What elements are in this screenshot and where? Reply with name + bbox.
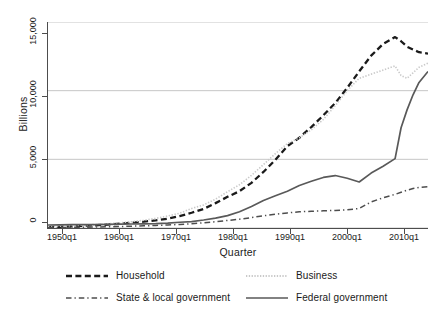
dotted-lightgray-key <box>245 269 289 283</box>
x-tick-label-2010: 2010q1 <box>382 232 426 242</box>
x-tick-label-1980: 1980q1 <box>211 232 255 242</box>
legend-row-2: State & local government Federal governm… <box>0 288 437 307</box>
x-tick-label-1950: 1950q1 <box>40 232 84 242</box>
x-axis-line <box>47 228 428 229</box>
chart-figure: Billions 0 5,000 10,000 15,000 1950q1 19… <box>0 0 437 314</box>
legend-label-business: Business <box>296 270 337 281</box>
series-line-business <box>48 63 428 226</box>
gridlines <box>48 22 428 228</box>
legend-key-svg-household <box>65 269 109 283</box>
chart-legend: Household Business State & local governm <box>0 266 437 312</box>
y-tick-text-0: 0 <box>28 205 38 235</box>
series-line-federal-government <box>48 71 428 225</box>
y-tick-text-5000: 5,000 <box>28 134 38 180</box>
x-tick-label-1970: 1970q1 <box>154 232 198 242</box>
legend-key-svg-state-local <box>65 291 109 305</box>
series-line-state-local-government <box>48 187 428 228</box>
dashdot-gray-key <box>65 291 109 305</box>
y-tick-text-10000: 10,000 <box>28 68 38 120</box>
plot-area <box>48 22 428 228</box>
legend-entry-state-local[interactable]: State & local government <box>65 288 230 307</box>
solid-gray-key <box>245 291 289 305</box>
series-line-household <box>48 37 428 227</box>
x-tick-label-2000: 2000q1 <box>325 232 369 242</box>
series-lines <box>48 37 428 228</box>
legend-label-household: Household <box>116 270 165 281</box>
x-tick-label-1960: 1960q1 <box>97 232 141 242</box>
y-tick-label-0: 0 <box>18 215 48 225</box>
x-tick-label-1990: 1990q1 <box>268 232 312 242</box>
legend-label-federal: Federal government <box>296 292 387 303</box>
legend-key-svg-business <box>245 269 289 283</box>
dashed-black-key <box>65 269 109 283</box>
legend-row-1: Household Business <box>0 266 437 285</box>
plot-svg <box>48 22 428 228</box>
legend-key-svg-federal <box>245 291 289 305</box>
y-tick-text-15000: 15,000 <box>28 5 38 57</box>
legend-entry-federal[interactable]: Federal government <box>245 288 387 307</box>
legend-entry-business[interactable]: Business <box>245 266 337 285</box>
legend-label-state-local: State & local government <box>116 292 230 303</box>
x-axis-title: Quarter <box>48 246 428 258</box>
legend-entry-household[interactable]: Household <box>65 266 165 285</box>
